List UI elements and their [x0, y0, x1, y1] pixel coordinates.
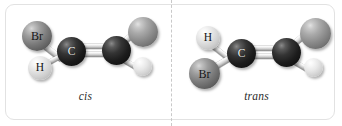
atom-c1-labeled: C	[227, 39, 256, 68]
molecule-cis: Br H C	[0, 0, 171, 92]
atom-label-h: H	[196, 26, 220, 50]
atom-br-labeled: Br	[22, 21, 52, 51]
atom-c1-labeled: C	[57, 37, 86, 66]
panel-cis: Br H C cis	[0, 0, 171, 126]
molecule-trans: H Br C	[171, 0, 342, 92]
atom-br-labeled: Br	[189, 58, 220, 89]
atom-c2	[272, 38, 301, 67]
atom-label-br: Br	[189, 58, 220, 89]
atom-c2	[102, 36, 131, 65]
atom-br-unlabeled	[300, 18, 331, 49]
atom-h-unlabeled	[304, 58, 323, 77]
caption-cis: cis	[0, 90, 171, 102]
atom-h-labeled: H	[196, 26, 220, 50]
atom-h-unlabeled	[133, 57, 152, 76]
panel-divider	[171, 0, 172, 126]
atom-h-labeled: H	[28, 56, 52, 80]
caption-trans: trans	[171, 90, 342, 102]
atom-br-unlabeled	[128, 17, 158, 47]
isomer-figure: Br H C cis	[0, 0, 342, 126]
atom-label-c: C	[57, 37, 86, 66]
atom-label-br: Br	[22, 21, 52, 51]
atom-label-h: H	[28, 56, 52, 80]
panel-trans: H Br C trans	[171, 0, 342, 126]
atom-label-c: C	[227, 39, 256, 68]
